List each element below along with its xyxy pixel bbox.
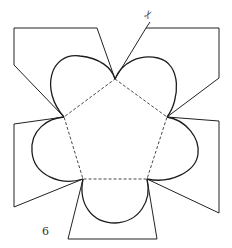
figure-number-label: 6 — [42, 226, 49, 237]
tab-left — [14, 117, 83, 207]
lobe-left — [32, 117, 83, 181]
net-drawing — [0, 0, 232, 248]
cut-start-line — [146, 22, 150, 28]
pentagon-box-net-diagram: ✂ 6 — [0, 0, 232, 248]
lobe-right — [147, 117, 198, 180]
tab-top-left — [14, 28, 115, 117]
lobe-top-left — [51, 56, 115, 117]
tab-top-right — [115, 28, 219, 117]
pentagon-fold-lines — [64, 79, 167, 179]
lobe-bottom — [82, 179, 148, 223]
lobe-top-right — [115, 57, 177, 117]
tab-right — [147, 117, 219, 213]
